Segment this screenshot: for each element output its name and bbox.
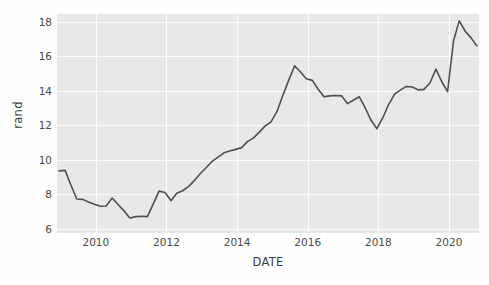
x-tick-label: 2012 <box>136 236 196 248</box>
y-tick-label: 18 <box>4 16 52 27</box>
x-tick-label: 2020 <box>419 236 479 248</box>
data-series-layer <box>57 14 479 233</box>
y-tick-label: 6 <box>4 223 52 234</box>
y-tick-label: 8 <box>4 189 52 200</box>
x-tick-label: 2016 <box>278 236 338 248</box>
plot-area <box>57 14 479 233</box>
y-tick-label: 10 <box>4 154 52 165</box>
x-tick-label: 2018 <box>348 236 408 248</box>
x-axis-label: DATE <box>57 255 479 269</box>
chart-figure: 681012141618 201020122014201620182020 DA… <box>0 0 489 285</box>
x-tick-label: 2014 <box>207 236 267 248</box>
x-tick-label: 2010 <box>66 236 126 248</box>
line-series-rand <box>59 21 477 218</box>
y-tick-label: 16 <box>4 51 52 62</box>
x-axis-ticks: 201020122014201620182020 <box>57 236 479 250</box>
y-axis-label: rand <box>11 85 25 145</box>
y-axis-ticks: 681012141618 <box>0 14 52 233</box>
